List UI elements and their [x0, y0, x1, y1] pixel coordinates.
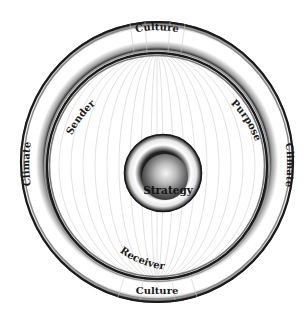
label-climate-left: Climate	[20, 141, 33, 187]
label-climate-right: Climate	[283, 142, 296, 188]
label-culture-bottom: Culture	[136, 285, 179, 296]
label-strategy: Strategy	[143, 184, 194, 196]
communication-strategy-diagram: Culture Culture Climate Climate Sender P…	[0, 0, 306, 320]
